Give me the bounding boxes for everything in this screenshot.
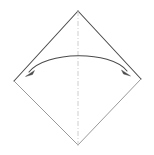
origami-diagram-svg: Origami square base fold step [0,0,154,155]
origami-diagram-canvas: Origami square base fold step [0,0,154,155]
diagram-background [0,0,154,155]
